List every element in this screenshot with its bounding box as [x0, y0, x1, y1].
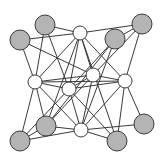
gray-node-G5 [36, 116, 56, 136]
gray-node-G8 [134, 114, 154, 134]
gray-node-G2 [10, 30, 30, 50]
white-node-W2 [28, 75, 42, 89]
white-node-W3 [62, 82, 76, 96]
edge-W1-W3 [69, 33, 80, 89]
edge-W2-W5 [35, 81, 125, 82]
edge-W1-G5 [46, 33, 80, 126]
white-node-W6 [74, 123, 88, 137]
gray-node-G1 [35, 15, 55, 35]
edge-W5-W6 [81, 81, 125, 130]
white-node-W5 [118, 74, 132, 88]
edge-W1-W2 [35, 33, 80, 82]
lattice-graph-diagram [0, 0, 167, 158]
white-node-W1 [73, 26, 87, 40]
gray-node-G7 [107, 131, 127, 151]
gray-node-G6 [10, 131, 30, 151]
gray-node-G4 [132, 14, 152, 34]
white-node-W4 [86, 68, 100, 82]
gray-node-G3 [105, 29, 125, 49]
